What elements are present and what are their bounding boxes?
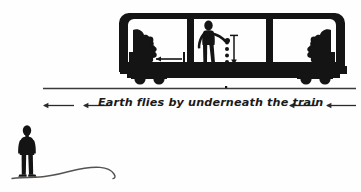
cargo-left-base — [129, 52, 151, 65]
wheel — [300, 73, 311, 84]
arrow-left-outer-right-icon — [326, 103, 356, 109]
coupler-right — [340, 66, 347, 74]
cargo-right-base — [313, 52, 335, 65]
wheel — [134, 73, 145, 84]
coupler-left — [120, 66, 127, 74]
arrow-left-inner-right-icon — [289, 103, 316, 109]
terrain-line — [12, 167, 115, 178]
interior-arrow-left-icon — [156, 56, 182, 61]
wheel — [153, 73, 164, 84]
physics-illustration — [0, 0, 361, 192]
cargo-right-detail — [309, 45, 315, 51]
rail-tick — [225, 86, 227, 88]
interior-arrow-stop — [183, 52, 185, 66]
falling-balls-group — [225, 41, 229, 65]
cargo-left-detail — [149, 45, 155, 51]
bogie-right — [297, 72, 333, 85]
cargo-left-detail — [147, 37, 154, 44]
falling-ball — [225, 47, 229, 51]
train-car — [119, 13, 347, 85]
figure-canvas: Earth flies by underneath the train — [0, 0, 361, 192]
wheel — [319, 73, 330, 84]
falling-ball — [225, 60, 229, 64]
cargo-right-detail — [311, 37, 318, 44]
annotation-arrows — [43, 103, 356, 109]
bogie-left — [131, 72, 167, 85]
observer-figure — [18, 125, 36, 176]
rail-line — [43, 86, 356, 89]
falling-ball — [225, 41, 229, 45]
gravity-arrow-down-icon — [230, 35, 238, 65]
falling-ball — [225, 54, 229, 58]
arrow-left-inner-left-icon — [83, 103, 110, 109]
arrow-left-outer-left-icon — [43, 103, 74, 109]
